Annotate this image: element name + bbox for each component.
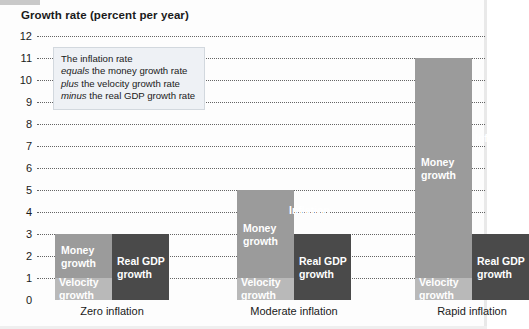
y-axis-tick-5: 5 (26, 184, 32, 196)
label-real-gdp-growth: Real GDP growth (477, 255, 525, 280)
y-axis-tick-7: 7 (26, 140, 32, 152)
note-line-1: The inflation rate (61, 53, 198, 65)
y-axis-tick-6: 6 (26, 162, 32, 174)
bar-money-growth: Money growthVelocity growthInflation (237, 190, 294, 300)
label-money-growth: Money growth (61, 244, 96, 269)
note-line-4: minus the real GDP growth rate (61, 90, 198, 102)
bar-segment-velocity-growth (415, 278, 472, 300)
bar-real-gdp-growth: Real GDP growth (472, 234, 529, 300)
bar-money-growth: Money growthVelocity growthInflation (415, 58, 472, 300)
bar-real-gdp-growth: Real GDP growth (294, 234, 351, 300)
label-real-gdp-growth: Real GDP growth (299, 255, 347, 280)
bar-real-gdp-growth: Real GDP growth (112, 234, 169, 300)
x-axis-category-label: Rapid inflation (415, 305, 529, 317)
x-axis-category-label: Moderate inflation (237, 305, 351, 317)
chart-title: Growth rate (percent per year) (21, 9, 189, 21)
y-axis-tick-3: 3 (26, 228, 32, 240)
scan-artifact-strip (0, 0, 40, 5)
y-axis-tick-2: 2 (26, 250, 32, 262)
label-inflation: Inflation (475, 132, 516, 145)
label-inflation: Inflation (289, 204, 330, 217)
inflation-equation-callout: The inflation rate equals the money grow… (53, 47, 205, 110)
bar-group: Money growthVelocity growthInflationReal… (237, 36, 351, 300)
y-axis-tick-4: 4 (26, 206, 32, 218)
note-line-2: equals the money growth rate (61, 65, 198, 77)
label-money-growth: Money growth (243, 222, 278, 247)
x-axis-category-label: Zero inflation (55, 305, 169, 317)
y-axis-tick-1: 1 (26, 272, 32, 284)
y-axis-tick-11: 11 (21, 52, 32, 64)
note-line-3: plus the velocity growth rate (61, 78, 198, 90)
bar-money-growth: Money growthVelocity growth (55, 234, 112, 300)
bar-group: Money growthVelocity growthInflationReal… (415, 36, 529, 300)
y-axis-tick-0: 0 (26, 294, 32, 306)
label-money-growth: Money growth (421, 156, 456, 181)
y-axis-tick-10: 10 (20, 74, 32, 86)
label-real-gdp-growth: Real GDP growth (117, 255, 165, 280)
y-axis-tick-8: 8 (26, 118, 32, 130)
bar-segment-velocity-growth (55, 278, 112, 300)
y-axis-tick-12: 12 (20, 30, 32, 42)
bar-segment-velocity-growth (237, 278, 294, 300)
y-axis-tick-9: 9 (26, 96, 32, 108)
